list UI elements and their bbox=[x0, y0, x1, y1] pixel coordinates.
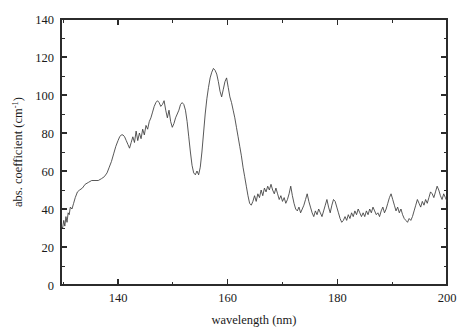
axis-ticks bbox=[61, 19, 447, 285]
y-axis-title-close-paren: ) bbox=[11, 97, 25, 101]
y-axis-title: abs. coefficient (cm-1) bbox=[10, 97, 25, 207]
plot-frame bbox=[61, 19, 447, 285]
y-tick-label: 0 bbox=[48, 279, 54, 293]
y-tick-label: 60 bbox=[42, 165, 55, 179]
x-axis-title: wavelength (nm) bbox=[211, 313, 296, 327]
y-tick-label: 120 bbox=[35, 51, 54, 65]
absorption-curve bbox=[61, 68, 447, 228]
absorption-spectrum-chart: 140160180200 020406080100120140 waveleng… bbox=[0, 0, 476, 334]
x-tick-label: 160 bbox=[218, 291, 237, 305]
x-tick-label: 180 bbox=[328, 291, 347, 305]
chart-figure: 140160180200 020406080100120140 waveleng… bbox=[0, 0, 476, 334]
svg-text:abs. coefficient (cm-1): abs. coefficient (cm-1) bbox=[10, 97, 25, 207]
y-tick-label: 80 bbox=[42, 127, 55, 141]
y-tick-label: 100 bbox=[35, 89, 54, 103]
y-axis-title-text: abs. coefficient (cm bbox=[11, 108, 25, 207]
data-series-group bbox=[61, 68, 447, 228]
y-tick-label: 140 bbox=[35, 13, 54, 27]
x-tick-label: 140 bbox=[109, 291, 128, 305]
x-tick-labels: 140160180200 bbox=[109, 291, 457, 305]
x-tick-label: 200 bbox=[438, 291, 457, 305]
y-axis-title-superscript: -1 bbox=[10, 101, 20, 108]
y-tick-label: 20 bbox=[42, 241, 55, 255]
y-tick-labels: 020406080100120140 bbox=[35, 13, 54, 293]
y-tick-label: 40 bbox=[42, 203, 55, 217]
